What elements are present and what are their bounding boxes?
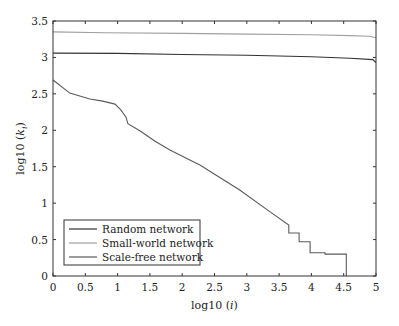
x-tick-label: 2 — [179, 281, 186, 293]
y-tick-label: 2 — [41, 124, 48, 136]
y-tick-label: 0.5 — [31, 234, 48, 246]
legend-label: Scale-free network — [102, 251, 204, 263]
y-tick-label: 3 — [41, 51, 48, 63]
x-tick-label: 0 — [50, 281, 57, 293]
y-axis-label: log10 (ki) — [14, 122, 29, 175]
series-line-random-network — [53, 53, 376, 62]
x-tick-label: 0.5 — [77, 281, 94, 293]
x-tick-labels: 00.511.522.533.544.55 — [50, 281, 380, 293]
x-tick-label: 3.5 — [271, 281, 288, 293]
legend: Random networkSmall-world networkScale-f… — [64, 220, 214, 265]
y-tick-label: 0 — [41, 270, 48, 282]
y-tick-label: 3.5 — [31, 15, 48, 27]
legend-label: Random network — [102, 223, 194, 235]
x-axis-label: log10 (i) — [191, 299, 238, 312]
y-tick-labels: 00.511.522.533.5 — [31, 15, 48, 282]
x-tick-label: 2.5 — [206, 281, 223, 293]
x-tick-label: 1 — [114, 281, 121, 293]
chart-container: 00.511.522.533.544.55 00.511.522.533.5 l… — [0, 0, 399, 326]
legend-label: Small-world network — [102, 237, 214, 249]
line-chart: 00.511.522.533.544.55 00.511.522.533.5 l… — [0, 0, 399, 326]
series-line-small-world-network — [53, 32, 376, 38]
y-tick-label: 1.5 — [31, 161, 48, 173]
y-tick-label: 2.5 — [31, 88, 48, 100]
x-tick-label: 5 — [373, 281, 380, 293]
x-tick-label: 4 — [308, 281, 315, 293]
x-tick-label: 4.5 — [335, 281, 352, 293]
y-tick-label: 1 — [41, 197, 48, 209]
x-tick-label: 1.5 — [142, 281, 159, 293]
x-tick-label: 3 — [243, 281, 250, 293]
